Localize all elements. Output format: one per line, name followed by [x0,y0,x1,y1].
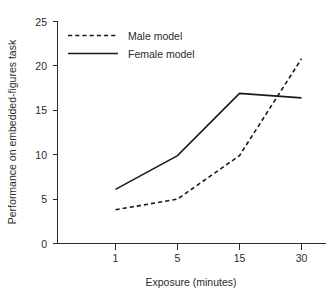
x-tick-label-1: 1 [113,252,119,264]
x-tick-group [116,244,302,250]
y-axis-title: Performance on embedded-figures task [6,39,18,224]
x-tick-label-30: 30 [296,252,308,264]
legend-label-female: Female model [128,48,195,60]
y-tick-label-20: 20 [35,60,47,72]
series-group [116,59,302,210]
chart-figure: 25 20 15 10 5 0 1 5 15 30 Exposure (minu… [0,0,336,296]
y-tick-label-10: 10 [35,149,47,161]
x-tick-label-5: 5 [175,252,181,264]
series-line-male [116,59,302,210]
y-tick-group [53,22,58,244]
legend-label-male: Male model [128,30,182,42]
chart-canvas: 25 20 15 10 5 0 1 5 15 30 Exposure (minu… [0,0,336,296]
legend: Male model Female model [68,30,195,60]
x-tick-label-15: 15 [234,252,246,264]
y-tick-label-15: 15 [35,104,47,116]
y-tick-label-group: 25 20 15 10 5 0 [35,16,47,250]
x-tick-label-group: 1 5 15 30 [113,252,308,264]
y-tick-label-5: 5 [41,193,47,205]
y-tick-label-25: 25 [35,16,47,28]
x-axis-title: Exposure (minutes) [145,276,236,288]
y-tick-label-0: 0 [41,238,47,250]
series-line-female [116,93,302,189]
